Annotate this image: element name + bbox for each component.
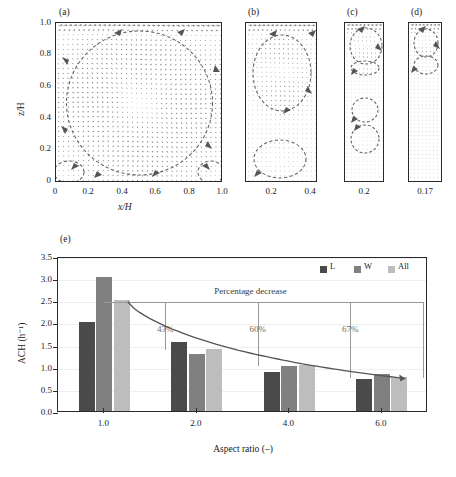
legend-swatch-w <box>354 266 361 273</box>
vector-field-b <box>246 23 317 182</box>
y-tick-label: 2.5 <box>22 296 52 306</box>
panel-a-xtick-3: 0.6 <box>140 186 170 196</box>
bar-l-4.0 <box>264 372 280 411</box>
vector-panel-a <box>55 22 222 182</box>
bar-all-1.0 <box>114 300 130 411</box>
chart-plot-area: 0.00.51.01.52.02.53.03.5 Percentage decr… <box>57 257 427 412</box>
x-tick <box>288 408 289 413</box>
chart-xlabel: Aspect ratio (–) <box>178 444 308 454</box>
x-tick-label: 2.0 <box>166 418 226 428</box>
pct-annotation-title: Percentage decrease <box>151 286 351 296</box>
x-tick <box>381 408 382 413</box>
panel-c-label: (c) <box>347 7 358 17</box>
y-tick-label: 3.5 <box>22 252 52 262</box>
y-tick <box>53 413 58 414</box>
panel-a-xtick-5: 1.0 <box>207 186 237 196</box>
x-tick <box>103 408 104 413</box>
vector-panel-c <box>344 22 384 182</box>
bar-all-4.0 <box>299 365 315 412</box>
gridline <box>58 280 426 281</box>
panel-a-label: (a) <box>59 7 70 17</box>
vector-field-a <box>56 23 222 182</box>
bar-all-6.0 <box>391 377 407 412</box>
bar-chart-e: (e) ACH (h⁻¹) Aspect ratio (–) 0.00.51.0… <box>0 232 456 477</box>
x-tick-label: 4.0 <box>258 418 318 428</box>
y-tick-label: 1.5 <box>22 341 52 351</box>
y-tick-label: 0.0 <box>22 407 52 417</box>
bar-all-2.0 <box>206 349 222 411</box>
bar-w-1.0 <box>96 277 112 411</box>
pct-divider <box>258 302 259 367</box>
panel-a-xtick-0: 0 <box>40 186 70 196</box>
bar-l-6.0 <box>356 379 372 411</box>
pct-bracket-line <box>104 302 424 303</box>
vector-panel-d <box>408 22 442 182</box>
panel-a-ytick-2: 0.4 <box>25 112 51 122</box>
panel-b-xtick-1: 0.4 <box>295 186 325 196</box>
y-tick <box>53 369 58 370</box>
bar-w-4.0 <box>281 366 297 411</box>
panel-a-ytick-0: 0 <box>25 175 51 185</box>
y-tick <box>53 391 58 392</box>
legend-label-all: All <box>398 261 409 271</box>
y-tick <box>53 302 58 303</box>
pct-divider <box>350 302 351 379</box>
y-tick-label: 3.0 <box>22 274 52 284</box>
panel-a-xtick-1: 0.2 <box>73 186 103 196</box>
bar-l-2.0 <box>171 342 187 411</box>
y-tick <box>53 324 58 325</box>
y-tick <box>53 347 58 348</box>
x-tick <box>196 408 197 413</box>
panel-b-xtick-0: 0.2 <box>256 186 286 196</box>
panel-b-label: (b) <box>248 7 259 17</box>
gridline <box>58 258 426 259</box>
vector-panel-b <box>245 22 317 182</box>
pct-label-43%: 43% <box>140 324 190 334</box>
panel-a-ylabel: z/H <box>16 102 26 116</box>
panel-a-ytick-1: 0.2 <box>25 143 51 153</box>
panel-e-label: (e) <box>60 234 71 244</box>
panel-c-xtick-0: 0.2 <box>349 186 379 196</box>
panel-a-ytick-5: 1.0 <box>25 17 51 27</box>
panel-a-ytick-4: 0.8 <box>25 48 51 58</box>
bar-w-6.0 <box>374 374 390 411</box>
pct-divider-end <box>423 302 424 379</box>
x-tick-label: 6.0 <box>351 418 411 428</box>
y-tick-label: 0.5 <box>22 385 52 395</box>
panel-a-xtick-2: 0.4 <box>107 186 137 196</box>
panel-a-xlabel: x/H <box>118 202 132 212</box>
bar-w-2.0 <box>189 354 205 411</box>
y-tick-label: 2.0 <box>22 318 52 328</box>
legend-label-w: W <box>364 261 372 271</box>
vector-field-d <box>409 23 442 182</box>
pct-label-67%: 67% <box>325 324 375 334</box>
x-tick-label: 1.0 <box>73 418 133 428</box>
legend-swatch-all <box>388 266 395 273</box>
y-tick-label: 1.0 <box>22 363 52 373</box>
panel-d-xtick-0: 0.17 <box>410 186 440 196</box>
panel-d-label: (d) <box>411 7 422 17</box>
figure-root: (a) 1.0 0.8 0.6 0.4 0.2 0 z/H 0 0.2 0.4 … <box>0 0 456 477</box>
bar-l-1.0 <box>79 322 95 412</box>
panel-a-ytick-3: 0.6 <box>25 80 51 90</box>
legend-label-l: L <box>330 261 335 271</box>
pct-label-60%: 60% <box>233 324 283 334</box>
y-tick <box>53 258 58 259</box>
legend-swatch-l <box>320 266 327 273</box>
y-tick <box>53 280 58 281</box>
panel-a-xtick-4: 0.8 <box>174 186 204 196</box>
vector-field-c <box>345 23 384 182</box>
